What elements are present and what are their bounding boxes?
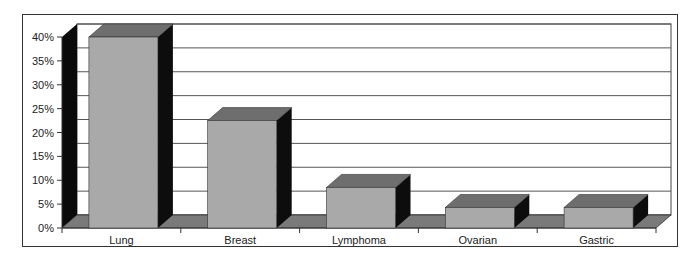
y-tick-label: 15% [32, 150, 54, 162]
x-category-label: Breast [224, 234, 256, 246]
x-category-label: Lymphoma [332, 234, 387, 246]
bar-top [445, 194, 529, 207]
x-category-label: Lung [109, 234, 133, 246]
bar-top [208, 108, 292, 121]
x-category-label: Gastric [579, 234, 614, 246]
bar-side [158, 24, 173, 228]
bar-top [327, 174, 411, 187]
y-tick-label: 5% [38, 198, 54, 210]
bar-ovarian [445, 207, 514, 228]
bar-breast [208, 121, 277, 228]
y-tick-label: 20% [32, 127, 54, 139]
y-tick-label: 25% [32, 103, 54, 115]
bar-top [564, 194, 648, 207]
bar-top [89, 24, 173, 37]
y-tick-label: 10% [32, 174, 54, 186]
bar-lung [89, 37, 158, 228]
bar-gastric [564, 207, 633, 228]
y-tick-label: 30% [32, 79, 54, 91]
bar-chart: 0%5%10%15%20%25%30%35%40%LungBreastLymph… [0, 0, 696, 260]
y-tick-label: 40% [32, 31, 54, 43]
bar-side [277, 108, 292, 228]
y-tick-label: 35% [32, 55, 54, 67]
x-category-label: Ovarian [459, 234, 498, 246]
left-wall [62, 24, 77, 228]
y-tick-label: 0% [38, 222, 54, 234]
bar-lymphoma [327, 187, 396, 228]
